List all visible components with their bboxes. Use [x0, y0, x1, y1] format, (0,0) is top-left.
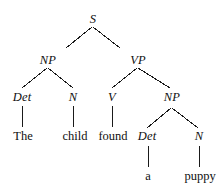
tree-node-np1: NP — [40, 54, 56, 67]
tree-leaf-found: found — [98, 130, 127, 143]
tree-edge-np1-det1 — [22, 68, 47, 88]
tree-node-v: V — [108, 91, 116, 104]
tree-leaf-the: The — [13, 130, 32, 143]
tree-node-vp: VP — [130, 54, 146, 67]
tree-leaf-a: a — [145, 170, 151, 183]
tree-edge-s-vp — [93, 27, 120, 48]
tree-edge-np2-det2 — [147, 108, 171, 128]
tree-node-det2: Det — [138, 130, 157, 143]
tree-edge-vp-v — [112, 68, 137, 88]
tree-leaf-child: child — [63, 130, 88, 143]
syntax-tree-figure: SNPVPDetNVNPThechildfoundDetNapuppy — [0, 0, 222, 192]
tree-edge-np2-n2 — [172, 108, 198, 128]
tree-edge-s-np1 — [66, 27, 92, 48]
tree-edge-vp-np2 — [138, 68, 170, 88]
tree-node-s: S — [90, 13, 96, 26]
tree-node-det1: Det — [13, 91, 32, 104]
tree-leaf-puppy: puppy — [184, 170, 215, 183]
tree-node-np2: NP — [164, 91, 180, 104]
tree-node-n2: N — [195, 130, 204, 143]
tree-edge-np1-n1 — [48, 68, 73, 88]
tree-node-n1: N — [69, 91, 78, 104]
